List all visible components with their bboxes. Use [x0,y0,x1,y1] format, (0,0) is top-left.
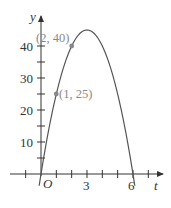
point-1-25 [54,92,59,97]
y-tick-label-40: 40 [20,39,33,54]
x-tick-label-6: 6 [128,178,135,193]
x-tick-label-3: 3 [83,178,90,193]
origin-label: O [43,176,53,191]
chart: (1, 25) (2, 40) y t O 3 6 40 30 20 10 [0,0,171,208]
y-tick-label-20: 20 [20,103,33,118]
point-label-2-40: (2, 40) [36,31,69,45]
y-axis-label: y [28,9,36,24]
parabola-curve [39,30,135,186]
y-tick-label-30: 30 [20,71,33,86]
point-label-1-25: (1, 25) [59,87,92,101]
x-axis-label: t [154,178,158,193]
point-2-40 [69,44,74,49]
y-tick-label-10: 10 [20,135,33,150]
